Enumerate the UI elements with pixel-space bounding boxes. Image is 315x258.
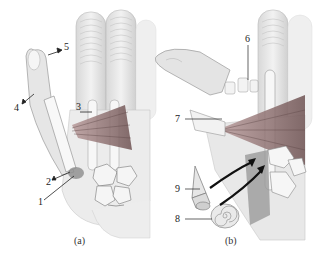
label-7: 7 [175, 114, 180, 124]
label-2: 2 [46, 177, 51, 187]
caption-panel-b: (b) [225, 235, 237, 246]
label-8: 8 [175, 214, 180, 224]
implant-cone-9 [192, 166, 210, 210]
label-3: 3 [76, 102, 81, 112]
label-5: 5 [64, 42, 69, 52]
label-1: 1 [38, 197, 43, 207]
implant-spiral-8 [211, 204, 239, 228]
label-4: 4 [14, 103, 19, 113]
panel-a-hand [26, 10, 156, 238]
anatomical-illustration [0, 0, 315, 258]
thumb-reconstruction-figure: 1 2 3 4 5 6 7 8 9 (a) (b) [0, 0, 315, 258]
label-9: 9 [175, 184, 180, 194]
caption-panel-a: (a) [74, 235, 85, 246]
label-6: 6 [245, 34, 250, 44]
panel-b-hand [155, 10, 312, 240]
